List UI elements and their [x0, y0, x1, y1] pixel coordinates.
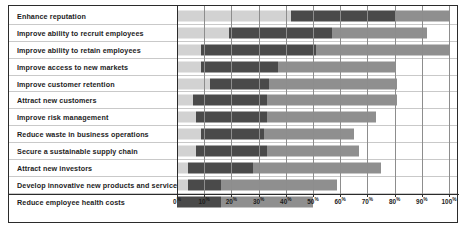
bar-segment-3: [221, 179, 338, 190]
x-tick-mark: [395, 194, 396, 197]
table-row: Enhance reputation: [9, 8, 457, 25]
bar-segment-2: [210, 78, 270, 89]
category-label: Enhance reputation: [17, 11, 86, 20]
x-tick-mark: [367, 194, 368, 197]
bar-segment-1: [177, 112, 196, 123]
row-plot-area: [177, 8, 449, 24]
bar-segment-2: [201, 44, 315, 55]
x-tick-mark: [259, 194, 260, 197]
stacked-bar: [177, 146, 449, 157]
category-label: Attract new investors: [17, 163, 92, 172]
stacked-bar: [177, 112, 449, 123]
category-label: Improve ability to recruit employees: [17, 28, 144, 37]
stacked-bar: [177, 162, 449, 173]
x-tick-label: 100%: [442, 197, 457, 205]
chart-frame: Enhance reputationImprove ability to rec…: [8, 5, 458, 223]
bar-segment-1: [177, 78, 210, 89]
stacked-bar-chart: Enhance reputationImprove ability to rec…: [0, 0, 466, 230]
bar-segment-3: [267, 112, 376, 123]
bar-segment-2: [201, 61, 277, 72]
table-row: Develop innovative new products and serv…: [9, 177, 457, 194]
stacked-bar: [177, 78, 449, 89]
x-tick-label: 90%: [416, 197, 427, 205]
x-tick-mark: [231, 194, 232, 197]
row-plot-area: [177, 42, 449, 58]
bar-segment-3: [332, 27, 427, 38]
x-tick-label: 30%: [253, 197, 264, 205]
bar-segment-3: [264, 129, 354, 140]
table-row: Improve ability to retain employees: [9, 42, 457, 59]
stacked-bar: [177, 10, 449, 21]
category-label: Develop innovative new products and serv…: [17, 180, 181, 189]
bar-segment-2: [196, 146, 267, 157]
stacked-bar: [177, 44, 449, 55]
row-plot-area: [177, 109, 449, 125]
bar-segment-1: [177, 162, 188, 173]
x-tick-label: 10%: [199, 197, 210, 205]
bar-segment-3: [395, 10, 449, 21]
x-tick-mark: [204, 194, 205, 197]
bar-segment-3: [278, 61, 395, 72]
x-axis-line: [9, 194, 459, 195]
bar-segment-1: [177, 95, 193, 106]
category-label: Attract new customers: [17, 96, 97, 105]
bar-segment-2: [229, 27, 332, 38]
row-plot-area: [177, 143, 449, 159]
x-tick-label: 40%: [280, 197, 291, 205]
stacked-bar: [177, 129, 449, 140]
bar-segment-1: [177, 129, 201, 140]
bar-segment-2: [188, 162, 253, 173]
y-axis-line: [177, 6, 178, 194]
bar-segment-3: [253, 162, 381, 173]
table-row: Improve customer retention: [9, 76, 457, 93]
x-tick-label: 0%: [173, 197, 181, 205]
stacked-bar: [177, 95, 449, 106]
table-row: Attract new customers: [9, 92, 457, 109]
bar-segment-1: [177, 27, 229, 38]
row-plot-area: [177, 126, 449, 142]
bar-segment-2: [196, 112, 267, 123]
table-row: Reduce waste in business operations: [9, 126, 457, 143]
row-plot-area: [177, 25, 449, 41]
stacked-bar: [177, 61, 449, 72]
row-plot-area: [177, 76, 449, 92]
x-tick-mark: [286, 194, 287, 197]
stacked-bar: [177, 27, 449, 38]
table-row: Secure a sustainable supply chain: [9, 143, 457, 160]
x-tick-label: 80%: [389, 197, 400, 205]
category-label: Improve access to new markets: [17, 62, 128, 71]
row-plot-area: [177, 59, 449, 75]
stacked-bar: [177, 179, 449, 190]
bar-segment-3: [267, 95, 398, 106]
x-tick-label: 50%: [307, 197, 318, 205]
x-tick-mark: [313, 194, 314, 197]
x-tick-label: 70%: [362, 197, 373, 205]
bar-segment-1: [177, 10, 291, 21]
category-label: Improve risk management: [17, 113, 108, 122]
table-row: Improve risk management: [9, 109, 457, 126]
x-tick-label: 20%: [226, 197, 237, 205]
bar-segment-3: [267, 146, 359, 157]
x-tick-mark: [177, 194, 178, 197]
category-label: Secure a sustainable supply chain: [17, 147, 138, 156]
bar-segment-1: [177, 44, 201, 55]
x-tick-mark: [422, 194, 423, 197]
bar-segment-3: [316, 44, 449, 55]
bar-segment-2: [193, 95, 266, 106]
x-tick-mark: [340, 194, 341, 197]
category-label: Improve ability to retain employees: [17, 45, 141, 54]
bar-segment-2: [291, 10, 394, 21]
x-tick-mark: [449, 194, 450, 197]
row-plot-area: [177, 92, 449, 108]
row-plot-area: [177, 160, 449, 176]
bar-segment-2: [201, 129, 264, 140]
bar-segment-1: [177, 146, 196, 157]
category-label: Reduce waste in business operations: [17, 130, 149, 139]
chart-rows: Enhance reputationImprove ability to rec…: [9, 8, 457, 194]
table-row: Improve ability to recruit employees: [9, 25, 457, 42]
bar-segment-2: [188, 179, 221, 190]
bar-segment-3: [269, 78, 397, 89]
bar-segment-1: [177, 61, 201, 72]
bar-segment-1: [177, 179, 188, 190]
category-label: Reduce employee health costs: [17, 198, 125, 207]
